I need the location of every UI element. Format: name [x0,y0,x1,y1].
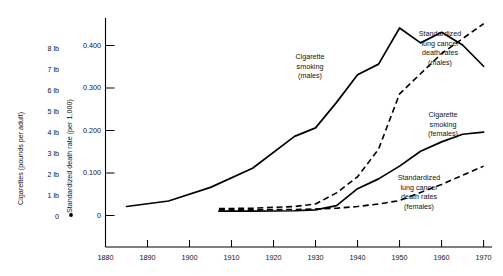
death-rate-tick-label: 0.400 [83,41,101,50]
death-rate-tick-labels: 00.1000.2000.3000.400 [83,41,101,220]
cigarettes-axis-tick-labels: 01 lb2 lb3 lb4 lb5 lb6 lb7 lb8 lb [47,44,59,221]
x-tick-label: 1910 [224,253,240,262]
cigarettes-tick-label: 0 [55,212,59,221]
x-tick-label: 1930 [308,253,324,262]
x-tick-label: 1880 [98,253,114,262]
series-annotations: Cigarettesmoking(males)Standardizedlung … [295,29,461,211]
annotation-label-3: Standardizedlung cancerdeath rates(femal… [398,173,440,211]
death-rate-tick-label: 0.100 [83,168,101,177]
x-axis-tick-marks [106,240,484,247]
cigarettes-tick-label: 4 lb [47,128,59,137]
annotation-label-2: Cigarettesmoking(females) [428,110,458,138]
line-chart: 01 lb2 lb3 lb4 lb5 lb6 lb7 lb8 lb Cigare… [0,0,503,276]
x-tick-label: 1970 [476,253,492,262]
cigarettes-tick-label: 5 lb [47,107,59,116]
origin-dot-marker [69,213,73,217]
cigarettes-axis-title: Cigarettes (pounds per adult) [16,112,25,205]
series-line-3 [219,166,484,210]
cigarettes-tick-label: 1 lb [47,191,59,200]
death-rate-axis-title: Standardized death rate (per 1,000) [65,99,74,213]
y-axis-tick-marks [106,46,115,216]
x-tick-label: 1940 [350,253,366,262]
x-tick-label: 1900 [182,253,198,262]
cigarettes-tick-label: 8 lb [47,44,59,53]
annotation-label-1: Standardizedlung cancerdeath rates(males… [419,29,461,67]
death-rate-tick-label: 0 [97,211,101,220]
death-rate-tick-label: 0.300 [83,83,101,92]
cigarettes-tick-label: 3 lb [47,149,59,158]
series-line-2 [219,132,484,211]
x-tick-label: 1960 [434,253,450,262]
cigarettes-tick-label: 2 lb [47,170,59,179]
cigarettes-tick-label: 7 lb [47,65,59,74]
x-axis-tick-labels: 1880189019001910192019301940195019601970 [98,253,492,262]
x-tick-label: 1950 [392,253,408,262]
cigarettes-tick-label: 6 lb [47,86,59,95]
x-tick-label: 1920 [266,253,282,262]
annotation-label-0: Cigarettesmoking(males) [295,52,324,80]
chart-figure: 01 lb2 lb3 lb4 lb5 lb6 lb7 lb8 lb Cigare… [0,0,503,276]
x-tick-label: 1890 [140,253,156,262]
death-rate-tick-label: 0.200 [83,126,101,135]
